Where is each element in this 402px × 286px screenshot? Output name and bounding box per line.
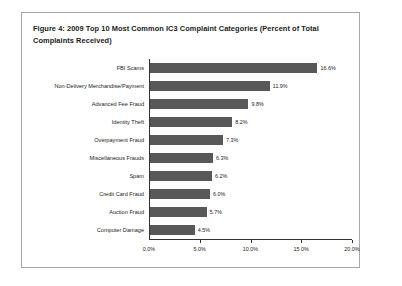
bar <box>149 135 223 145</box>
bar <box>149 63 317 73</box>
bar-row: FBI Scams16.6% <box>32 59 352 77</box>
bar-value-label: 6.0% <box>213 190 225 198</box>
bar-value-label: 6.2% <box>215 172 227 180</box>
bar-track: 11.9% <box>149 77 352 95</box>
bar-value-label: 8.2% <box>235 118 247 126</box>
bar-row: Miscellaneous Frauds6.3% <box>32 149 352 167</box>
bar <box>149 207 207 217</box>
category-label: Overpayment Fraud <box>32 137 149 144</box>
category-label: Miscellaneous Frauds <box>32 155 149 162</box>
bar-row: Identity Theft8.2% <box>32 113 352 131</box>
category-label: Spam <box>32 173 149 180</box>
bar-value-label: 9.8% <box>251 100 263 108</box>
bar-track: 5.7% <box>149 203 352 221</box>
category-label: Non-Delivery Merchandise/Payment <box>32 83 149 90</box>
y-axis-line <box>149 59 150 240</box>
bar-row: Advanced Fee Fraud9.8% <box>32 95 352 113</box>
bar-track: 7.3% <box>149 131 352 149</box>
bar <box>149 99 248 109</box>
bar-row: Spam6.2% <box>32 167 352 185</box>
bar-track: 6.0% <box>149 185 352 203</box>
bar-track: 6.2% <box>149 167 352 185</box>
category-label: Identity Theft <box>32 119 149 126</box>
bar-value-label: 16.6% <box>320 64 335 72</box>
bar <box>149 153 213 163</box>
category-label: Advanced Fee Fraud <box>32 101 149 108</box>
x-axis-tick <box>352 240 353 243</box>
x-axis-tick-label: 15.0% <box>294 245 309 253</box>
x-axis-tick-label: 5.0% <box>194 245 206 253</box>
bar-row: Computer Damage4.5% <box>32 221 352 239</box>
figure-container: Figure 4: 2009 Top 10 Most Common IC3 Co… <box>21 12 360 268</box>
chart-plot-area: FBI Scams16.6%Non-Delivery Merchandise/P… <box>32 59 352 259</box>
bar-value-label: 4.5% <box>198 226 210 234</box>
bar-track: 9.8% <box>149 95 352 113</box>
bar <box>149 117 232 127</box>
bar-track: 8.2% <box>149 113 352 131</box>
bar <box>149 225 195 235</box>
bar-track: 6.3% <box>149 149 352 167</box>
bar <box>149 189 210 199</box>
bar-value-label: 7.3% <box>226 136 238 144</box>
bar-row: Auction Fraud5.7% <box>32 203 352 221</box>
bar-row: Overpayment Fraud7.3% <box>32 131 352 149</box>
bar-row: Non-Delivery Merchandise/Payment11.9% <box>32 77 352 95</box>
bar <box>149 171 212 181</box>
bar-track: 16.6% <box>149 59 352 77</box>
category-label: FBI Scams <box>32 65 149 72</box>
category-label: Auction Fraud <box>32 209 149 216</box>
bar-row: Credit Card Fraud6.0% <box>32 185 352 203</box>
x-axis-tick-label: 10.0% <box>243 245 258 253</box>
bar-value-label: 6.3% <box>216 154 228 162</box>
x-axis-tick-label: 20.0% <box>344 245 359 253</box>
x-axis-tick <box>301 240 302 243</box>
x-axis-tick-label: 0.0% <box>143 245 155 253</box>
bar-track: 4.5% <box>149 221 352 239</box>
bar-value-label: 5.7% <box>210 208 222 216</box>
bars-region: FBI Scams16.6%Non-Delivery Merchandise/P… <box>32 59 352 239</box>
bar-value-label: 11.9% <box>273 82 288 90</box>
x-axis-tick <box>200 240 201 243</box>
category-label: Credit Card Fraud <box>32 191 149 198</box>
category-label: Computer Damage <box>32 227 149 234</box>
figure-title: Figure 4: 2009 Top 10 Most Common IC3 Co… <box>33 23 343 46</box>
x-axis-tick <box>251 240 252 243</box>
bar <box>149 81 270 91</box>
